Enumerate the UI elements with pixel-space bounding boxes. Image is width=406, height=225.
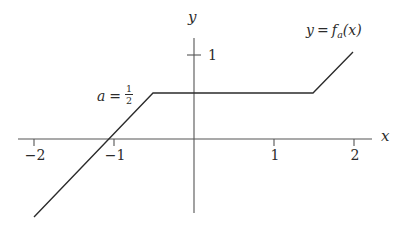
x-tick-label--2: −2 — [24, 148, 46, 162]
curve-label-equals: = — [317, 22, 329, 38]
x-tick-label-2: 2 — [344, 148, 366, 162]
curve-label-argument: (x) — [343, 22, 362, 38]
parameter-label: a= 1 2 — [97, 85, 133, 107]
y-tick-label-1: 1 — [208, 48, 222, 62]
fraction-numerator: 1 — [125, 84, 133, 94]
x-tick-label-1: 1 — [264, 148, 286, 162]
curve-label: y=fa(x) — [306, 23, 362, 39]
fraction-denominator: 2 — [125, 96, 133, 106]
parameter-label-a: a — [97, 89, 105, 103]
parameter-label-equals: = — [109, 89, 121, 103]
x-axis-label: x — [381, 129, 389, 144]
x-tick-label--1: −1 — [104, 148, 126, 162]
function-plot-figure: y x −2 −1 1 2 1 y=fa(x) a= 1 2 — [0, 0, 406, 225]
parameter-label-fraction: 1 2 — [125, 84, 133, 106]
curve-label-y: y — [306, 22, 314, 38]
y-axis-label: y — [188, 10, 196, 25]
